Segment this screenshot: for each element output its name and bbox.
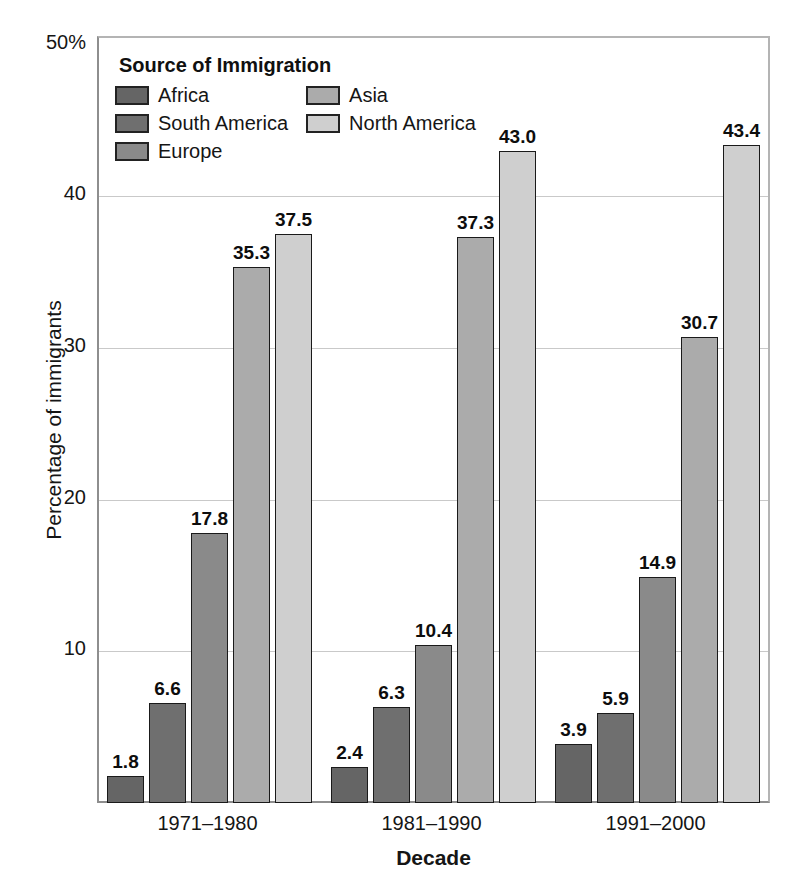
bar-value-label: 3.9: [545, 719, 602, 741]
bar-value-label: 35.3: [223, 242, 280, 264]
bar-africa-1991–2000: [555, 744, 592, 803]
bar-value-label: 6.3: [363, 682, 420, 704]
y-axis-tick-label: 10: [6, 638, 86, 658]
bar-europe-1991–2000: [639, 577, 676, 803]
legend-item-label: South America: [158, 112, 288, 135]
plot-area: 1.86.617.835.337.52.46.310.437.343.03.95…: [97, 36, 770, 803]
bar-south-america-1991–2000: [597, 713, 634, 803]
legend-swatch-icon: [306, 86, 340, 105]
bar-north-america-1981–1990: [499, 151, 536, 803]
legend-item-south-america[interactable]: South America: [115, 112, 288, 135]
legend-item-north-america[interactable]: North America: [306, 112, 476, 135]
bar-value-label: 17.8: [181, 508, 238, 530]
bar-value-label: 14.9: [629, 552, 686, 574]
y-axis-title: Percentage of immigrants: [42, 270, 66, 570]
bar-asia-1971–1980: [233, 267, 270, 803]
bar-value-label: 43.0: [489, 126, 546, 148]
bar-value-label: 1.8: [97, 751, 154, 773]
legend-column-right: AsiaNorth America: [306, 84, 476, 163]
bar-north-america-1991–2000: [723, 145, 760, 803]
y-axis-tick-label: 20: [6, 487, 86, 507]
bar-south-america-1971–1980: [149, 703, 186, 803]
legend-item-label: Africa: [158, 84, 209, 107]
bar-asia-1991–2000: [681, 337, 718, 803]
bar-europe-1981–1990: [415, 645, 452, 803]
legend-item-africa[interactable]: Africa: [115, 84, 288, 107]
gridline: [99, 348, 768, 349]
y-axis-tick-label: 30: [6, 335, 86, 355]
x-axis-title: Decade: [97, 846, 770, 870]
legend-column-left: AfricaSouth AmericaEurope: [115, 84, 288, 163]
x-axis-tick-label: 1991–2000: [523, 812, 788, 835]
bar-chart: Percentage of immigrants 50%40302010 1.8…: [0, 0, 792, 891]
gridline: [99, 500, 768, 501]
legend-swatch-icon: [115, 86, 149, 105]
bar-value-label: 37.3: [447, 212, 504, 234]
bar-africa-1981–1990: [331, 767, 368, 803]
bar-asia-1981–1990: [457, 237, 494, 803]
bar-value-label: 2.4: [321, 742, 378, 764]
bar-africa-1971–1980: [107, 776, 144, 803]
bar-south-america-1981–1990: [373, 707, 410, 803]
legend-item-asia[interactable]: Asia: [306, 84, 476, 107]
legend-item-label: Asia: [349, 84, 388, 107]
legend-title: Source of Immigration: [119, 54, 455, 77]
bar-value-label: 30.7: [671, 312, 728, 334]
legend-swatch-icon: [115, 114, 149, 133]
y-axis-tick-label: 40: [6, 183, 86, 203]
legend-swatch-icon: [115, 142, 149, 161]
legend-swatch-icon: [306, 114, 340, 133]
bar-value-label: 6.6: [139, 678, 196, 700]
legend-item-europe[interactable]: Europe: [115, 140, 288, 163]
gridline: [99, 196, 768, 197]
bar-value-label: 43.4: [713, 120, 770, 142]
bar-north-america-1971–1980: [275, 234, 312, 803]
y-axis-tick-label: 50%: [6, 32, 86, 52]
legend-item-label: Europe: [158, 140, 223, 163]
bar-europe-1971–1980: [191, 533, 228, 803]
bar-value-label: 37.5: [265, 209, 322, 231]
legend: Source of Immigration AfricaSouth Americ…: [115, 54, 455, 163]
bar-value-label: 5.9: [587, 688, 644, 710]
bar-value-label: 10.4: [405, 620, 462, 642]
legend-item-label: North America: [349, 112, 476, 135]
